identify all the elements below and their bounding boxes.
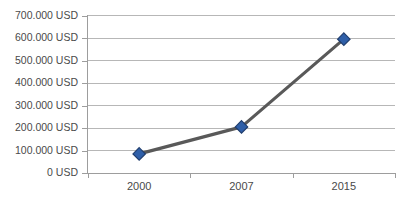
data-point-marker[interactable] <box>133 148 145 160</box>
data-series-layer <box>0 0 405 207</box>
line-chart: 700.000 USD600.000 USD500.000 USD400.000… <box>0 0 405 207</box>
series-line <box>139 39 344 154</box>
